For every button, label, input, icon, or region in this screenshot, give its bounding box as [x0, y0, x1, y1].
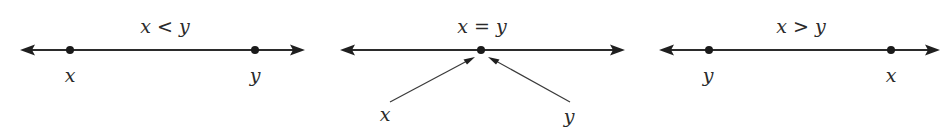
point-x-dot	[887, 46, 895, 54]
relation-title: x > y	[776, 15, 826, 37]
point-y-label: y	[249, 64, 261, 86]
point-x-label: x	[886, 64, 897, 86]
point-x-dot	[66, 46, 74, 54]
pointer-x-arrowhead-icon	[464, 57, 476, 65]
pointer-y-line	[495, 61, 570, 103]
pointer-y-label: y	[563, 105, 575, 127]
relation-title: x = y	[457, 15, 507, 37]
diagram-x-equals-y: x = y x y	[340, 15, 625, 127]
diagram-x-less-than-y: x < y x y	[20, 15, 305, 86]
pointer-x-label: x	[380, 103, 391, 125]
pointer-x-line	[390, 61, 468, 103]
point-y-label: y	[702, 64, 714, 86]
point-y-dot	[251, 46, 259, 54]
pointer-y-arrowhead-icon	[488, 57, 500, 65]
point-y-dot	[705, 46, 713, 54]
shared-point-dot	[477, 46, 485, 54]
relation-title: x < y	[140, 15, 190, 37]
point-x-label: x	[65, 64, 76, 86]
number-line-comparison-diagram: x < y x y x = y x y x > y y x	[0, 0, 943, 138]
diagram-x-greater-than-y: x > y y x	[659, 15, 940, 86]
